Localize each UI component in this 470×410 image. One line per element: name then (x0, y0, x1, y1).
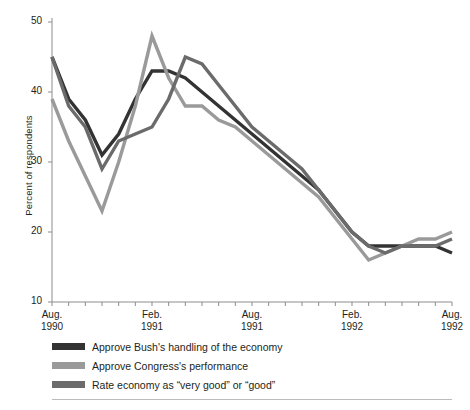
legend-item: Rate economy as “very good” or “good” (52, 375, 283, 394)
legend-label: Rate economy as “very good” or “good” (92, 379, 275, 391)
series-line-3 (52, 57, 452, 253)
line-chart-figure: Percent of respondents 1020304050 Aug.19… (0, 0, 470, 410)
legend-label: Approve Bush's handling of the economy (92, 341, 283, 353)
legend-swatch-icon (52, 362, 85, 369)
axis-spines (52, 18, 452, 302)
legend-label: Approve Congress's performance (92, 360, 248, 372)
legend-item: Approve Bush's handling of the economy (52, 337, 283, 356)
footer-divider (52, 399, 452, 400)
legend-swatch-icon (52, 343, 85, 350)
legend-swatch-icon (52, 381, 85, 388)
legend-item: Approve Congress's performance (52, 356, 283, 375)
chart-legend: Approve Bush's handling of the economyAp… (52, 337, 283, 394)
series-line-2 (52, 36, 452, 260)
